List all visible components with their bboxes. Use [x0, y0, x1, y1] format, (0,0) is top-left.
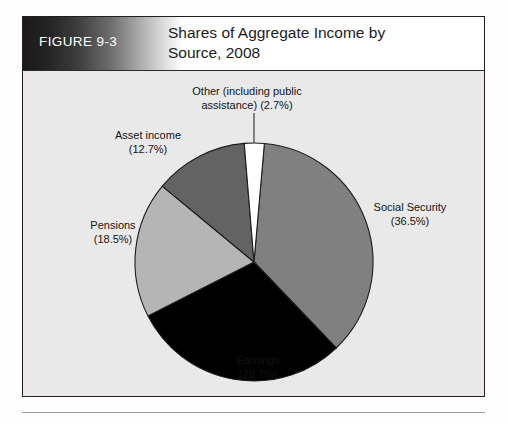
- figure-header: FIGURE 9-3 Shares of Aggregate Income by…: [23, 17, 484, 71]
- figure-title-line1: Shares of Aggregate Income by: [168, 24, 385, 41]
- pie-label-asset-line1: Asset income: [115, 129, 181, 141]
- pie-label-social-line1: Social Security: [374, 201, 447, 213]
- pie-label-pensions-line1: Pensions: [90, 219, 135, 231]
- figure-title-line2: Source, 2008: [168, 43, 468, 63]
- pie-label-other-line2: assistance) (2.7%): [157, 99, 337, 113]
- pie-label-social-line2: (36.5%): [345, 215, 475, 229]
- pie-chart-area: Other (including public assistance) (2.7…: [23, 71, 484, 396]
- page-background: FIGURE 9-3 Shares of Aggregate Income by…: [0, 0, 508, 424]
- pie-label-pensions: Pensions (18.5%): [53, 219, 173, 246]
- figure-title: Shares of Aggregate Income by Source, 20…: [168, 23, 468, 63]
- pie-label-asset-line2: (12.7%): [83, 143, 213, 157]
- pie-label-earnings-line1: Earnings: [236, 354, 279, 366]
- pie-label-earnings-line2: (29.7%): [193, 368, 323, 382]
- pie-label-pensions-line2: (18.5%): [53, 233, 173, 247]
- pie-label-earnings: Earnings (29.7%): [193, 354, 323, 381]
- pie-label-other: Other (including public assistance) (2.7…: [157, 85, 337, 112]
- bottom-divider-rule: [22, 412, 485, 413]
- pie-label-asset-income: Asset income (12.7%): [83, 129, 213, 156]
- pie-label-other-line1: Other (including public: [192, 85, 301, 97]
- pie-label-social-security: Social Security (36.5%): [345, 201, 475, 228]
- figure-number-label: FIGURE 9-3: [39, 34, 117, 49]
- figure-box: FIGURE 9-3 Shares of Aggregate Income by…: [22, 16, 485, 397]
